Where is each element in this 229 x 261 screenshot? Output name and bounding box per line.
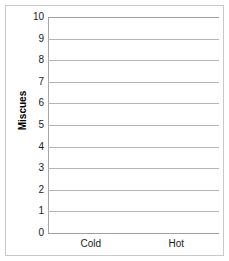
gridline-7 [48,82,219,83]
gridline-0 [48,233,219,234]
y-tick-label: 1 [4,206,44,216]
y-tick-label: 4 [4,142,44,152]
gridline-8 [48,60,219,61]
x-tick-label-cold: Cold [61,238,121,249]
gridline-9 [48,39,219,40]
gridline-3 [48,168,219,169]
y-tick-label: 0 [4,228,44,238]
y-tick-label: 2 [4,185,44,195]
gridline-1 [48,211,219,212]
gridline-10 [48,17,219,18]
gridline-2 [48,190,219,191]
y-tick-label: 3 [4,163,44,173]
y-tick-label: 10 [4,12,44,22]
y-tick-label: 9 [4,34,44,44]
chart-container: 012345678910 Miscues ColdHot [0,0,229,261]
x-tick-label-hot: Hot [146,238,206,249]
gridline-6 [48,103,219,104]
y-axis-title: Miscues [17,81,28,141]
y-tick-label: 8 [4,55,44,65]
gridline-4 [48,147,219,148]
gridline-5 [48,125,219,126]
